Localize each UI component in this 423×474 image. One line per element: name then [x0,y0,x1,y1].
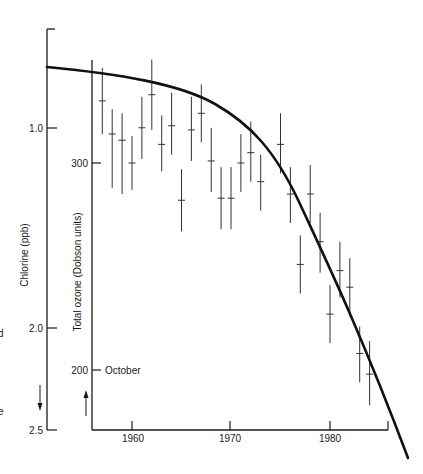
ozone-data-point [307,165,314,223]
october-annotation: October [105,365,141,376]
ozone-data-point [119,113,126,194]
arrow-down-icon [38,385,43,411]
ozone-data-point [237,134,244,192]
ozone-data-point [287,167,294,223]
ozone-data-point [138,97,145,159]
x-tick-1970: 1970 [219,433,242,444]
ozone-data-point [228,167,235,229]
ozone-data-point [99,68,106,134]
chlorine-tick-2-0: 2.0 [29,323,43,334]
chlorine-tick-1-0: 1.0 [29,123,43,134]
chlorine-curve [47,67,408,458]
ozone-chlorine-chart: d e 1.0 2.0 2.5 Chlorine (ppb) 300 200 T… [0,0,423,474]
ozone-tick-300: 300 [71,158,88,169]
ozone-data-point [148,60,155,130]
ozone-data-point [366,341,373,405]
clipped-text-2: e [0,406,4,417]
ozone-data-point [327,285,334,343]
x-axis: 1960 1970 1980 [92,421,388,444]
chlorine-tick-2-5: 2.5 [29,425,43,436]
ozone-tick-200: 200 [71,365,88,376]
ozone-data-point [297,235,304,293]
ozone-data-series [99,60,373,406]
ozone-data-point [188,97,195,161]
ozone-data-point [158,115,165,171]
clipped-text-1: d [0,328,4,339]
x-tick-1960: 1960 [122,433,145,444]
ozone-data-point [218,167,225,229]
ozone-data-point [208,128,215,192]
ozone-axis: 300 200 Total ozone (Dobson units) Octob… [71,60,141,430]
ozone-data-point [129,136,136,190]
ozone-data-point [168,93,175,155]
ozone-data-point [198,84,205,142]
arrow-up-icon [84,390,89,416]
ozone-data-point [109,109,116,188]
ozone-data-point [178,169,185,231]
ozone-axis-title: Total ozone (Dobson units) [72,213,83,332]
chlorine-axis: 1.0 2.0 2.5 Chlorine (ppb) [19,29,57,436]
chlorine-axis-title: Chlorine (ppb) [19,223,30,286]
x-tick-1980: 1980 [319,433,342,444]
ozone-data-point [257,155,264,211]
